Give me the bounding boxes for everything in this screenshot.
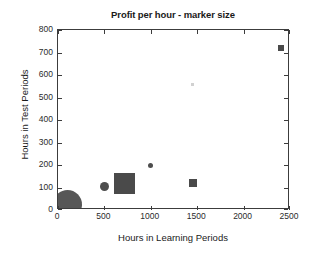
y-tick-label: 100 bbox=[39, 182, 53, 192]
scatter-point bbox=[58, 190, 82, 208]
x-tick-top bbox=[197, 30, 198, 34]
y-tick bbox=[58, 98, 62, 99]
x-tick-top bbox=[104, 30, 105, 34]
x-tick-top bbox=[289, 30, 290, 34]
scatter-markers-layer bbox=[58, 30, 288, 208]
x-tick bbox=[197, 206, 198, 210]
x-tick-label: 0 bbox=[55, 211, 60, 221]
x-tick-label: 500 bbox=[96, 211, 110, 221]
scatter-point bbox=[189, 179, 197, 187]
y-tick bbox=[58, 143, 62, 144]
x-tick bbox=[104, 206, 105, 210]
y-tick bbox=[58, 30, 62, 31]
y-tick-right bbox=[284, 165, 288, 166]
scatter-point bbox=[148, 163, 153, 168]
y-tick-label: 700 bbox=[39, 47, 53, 57]
x-tick-label: 2500 bbox=[280, 211, 299, 221]
plot-area bbox=[57, 29, 289, 209]
scatter-point bbox=[278, 45, 284, 51]
y-tick bbox=[58, 209, 62, 210]
x-tick-top bbox=[151, 30, 152, 34]
x-tick bbox=[244, 206, 245, 210]
y-tick-right bbox=[284, 30, 288, 31]
scatter-point bbox=[114, 173, 135, 194]
y-tick bbox=[58, 53, 62, 54]
y-tick-label: 300 bbox=[39, 137, 53, 147]
y-tick-label: 0 bbox=[48, 204, 53, 214]
chart-title: Profit per hour - marker size bbox=[57, 9, 289, 20]
y-tick-label: 500 bbox=[39, 92, 53, 102]
figure-canvas: Profit per hour - marker size 0500100015… bbox=[0, 0, 312, 258]
x-tick bbox=[289, 206, 290, 210]
x-axis-label: Hours in Learning Periods bbox=[57, 232, 289, 243]
y-tick bbox=[58, 120, 62, 121]
y-tick-label: 400 bbox=[39, 114, 53, 124]
x-tick-label: 2000 bbox=[233, 211, 252, 221]
y-tick bbox=[58, 75, 62, 76]
y-tick-right bbox=[284, 53, 288, 54]
y-tick-right bbox=[284, 143, 288, 144]
y-tick-label: 200 bbox=[39, 159, 53, 169]
y-tick-right bbox=[284, 120, 288, 121]
y-tick-label: 800 bbox=[39, 24, 53, 34]
y-tick-right bbox=[284, 188, 288, 189]
x-tick bbox=[151, 206, 152, 210]
x-tick-label: 1000 bbox=[140, 211, 159, 221]
y-tick bbox=[58, 165, 62, 166]
x-tick-label: 1500 bbox=[187, 211, 206, 221]
y-axis-label: Hours in Test Periods bbox=[19, 25, 30, 205]
y-tick-label: 600 bbox=[39, 69, 53, 79]
scatter-point bbox=[100, 182, 109, 191]
y-tick bbox=[58, 188, 62, 189]
y-tick-right bbox=[284, 209, 288, 210]
scatter-point bbox=[191, 83, 194, 86]
y-tick-right bbox=[284, 75, 288, 76]
x-tick-top bbox=[244, 30, 245, 34]
y-tick-right bbox=[284, 98, 288, 99]
